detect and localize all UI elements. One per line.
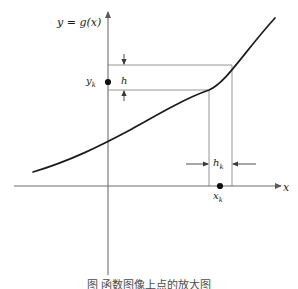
- x-axis-label: x: [283, 181, 289, 194]
- yk-label: yk: [86, 75, 96, 89]
- xk-label: xk: [213, 190, 223, 204]
- h-label: h: [121, 75, 127, 86]
- function-curve: [33, 18, 275, 172]
- yk-label-subscript: k: [92, 81, 96, 89]
- xk-point-marker: [217, 183, 223, 189]
- xk-label-subscript: k: [219, 196, 223, 204]
- graph-canvas: [0, 0, 298, 289]
- hk-label-subscript: k: [219, 163, 223, 171]
- figure-caption: 图 函数图像上点的放大图: [0, 279, 298, 289]
- figure-container: y = g(x) x yk h hk xk 图 函数图像上点的放大图: [0, 0, 298, 289]
- hk-label: hk: [213, 157, 224, 171]
- y-axis-label: y = g(x): [57, 16, 101, 29]
- yk-point-marker: [105, 79, 111, 85]
